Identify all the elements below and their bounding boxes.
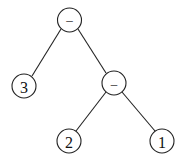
edge-minus-to-2 — [76, 92, 106, 131]
node-label: – — [65, 12, 73, 27]
edges — [32, 29, 155, 131]
node-label: 3 — [20, 79, 28, 96]
edge-minus-to-1 — [122, 92, 155, 131]
edge-root-to-minus — [78, 29, 106, 73]
node-label: – — [110, 76, 118, 91]
node-2: 2 — [57, 129, 81, 153]
node-label: 1 — [158, 134, 166, 151]
expression-tree-diagram: – 3 – 2 1 — [0, 0, 185, 163]
edge-root-to-3 — [32, 29, 61, 76]
node-label: 2 — [65, 134, 73, 151]
node-1: 1 — [150, 129, 174, 153]
node-subtract: – — [102, 71, 126, 95]
node-3: 3 — [12, 74, 36, 98]
node-root: – — [58, 8, 82, 32]
